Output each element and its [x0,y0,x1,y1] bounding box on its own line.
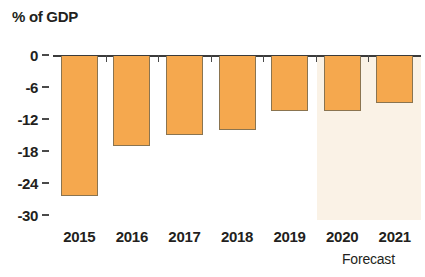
x-axis-label-2018: 2018 [221,228,253,245]
chart-axis-title: % of GDP [12,8,78,25]
bar-2018 [219,56,256,130]
x-axis-label-2021: 2021 [379,228,411,245]
bar-2021 [376,56,413,103]
y-axis-tick-mark [42,150,49,152]
x-axis-tick-mark [316,55,317,62]
y-axis-tick-label: -24 [4,175,38,192]
forecast-annotation-label: Forecast [342,251,395,267]
bar-2019 [271,56,308,111]
y-axis-tick-mark [42,86,49,88]
x-axis-tick-mark [368,55,369,62]
bar-2015 [61,56,98,196]
x-axis-label-2015: 2015 [63,228,95,245]
x-axis-tick-mark [211,55,212,62]
bar-2016 [113,56,150,146]
x-axis-tick-mark [158,55,159,62]
plot-area [53,50,421,220]
bar-chart: % of GDP 0-6-12-18-24-302015201620172018… [0,0,425,277]
y-axis-tick-label: -30 [4,207,38,224]
y-axis-tick-label: -6 [4,79,38,96]
x-axis-label-2016: 2016 [116,228,148,245]
y-axis-tick-label: 0 [4,47,38,64]
y-axis-tick-mark [42,54,49,56]
y-axis-tick-mark [42,182,49,184]
bar-2020 [324,56,361,111]
x-axis-tick-mark [106,55,107,62]
y-axis-tick-mark [42,118,49,120]
y-axis-tick-label: -12 [4,111,38,128]
y-axis-tick-label: -18 [4,143,38,160]
bar-2017 [166,56,203,135]
x-axis-label-2017: 2017 [168,228,200,245]
x-axis-label-2019: 2019 [273,228,305,245]
x-axis-label-2020: 2020 [326,228,358,245]
x-axis-tick-mark [263,55,264,62]
y-axis-tick-mark [42,214,49,216]
